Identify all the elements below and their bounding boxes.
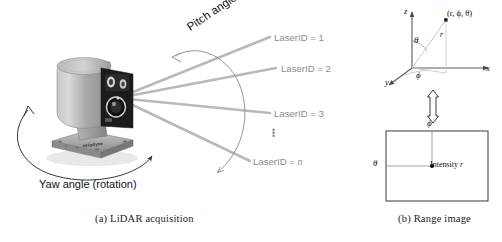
laser-id-1-label: LaserID = 1 (274, 32, 324, 43)
laser-ellipsis: ••• (272, 129, 275, 138)
laser-id-3-label: LaserID = 3 (274, 108, 324, 119)
range-image-phi-label: ϕ (427, 118, 432, 128)
range-image-theta-label: θ (373, 158, 377, 168)
spherical-axes-diagram (389, 12, 488, 85)
axis-y (389, 68, 412, 85)
lidar-device: velodyne (46, 58, 138, 166)
laser-beams (118, 37, 276, 161)
phi-label: ϕ (416, 70, 421, 80)
point-marker (444, 18, 447, 21)
yaw-angle-label: Yaw angle (rotation) (39, 178, 137, 190)
range-image-pixel-label: Intensity r (430, 160, 463, 169)
laser-beam-2 (118, 68, 276, 98)
axis-y-label: y (385, 77, 389, 87)
laser-beam-3 (118, 98, 270, 113)
laser-id-n-label: LaserID = n (253, 156, 303, 167)
caption-panel-b: (b) Range image (398, 213, 471, 224)
caption-panel-a: (a) LiDAR acquisition (95, 213, 194, 224)
spherical-point-label: (r, ϕ, θ) (447, 8, 472, 18)
range-image-pixel-text: Intensity (430, 160, 458, 169)
laser-beam-n (118, 98, 250, 161)
laser-beam-1 (118, 37, 270, 98)
axis-x-label: x (486, 63, 490, 73)
pitch-angle-arc (172, 51, 245, 172)
radius-label: r (440, 30, 443, 39)
axis-z-label: z (404, 6, 407, 16)
range-image-pixel-italic: r (460, 160, 463, 169)
laser-id-n-text: LaserID = (253, 156, 298, 167)
laser-id-n-italic: n (298, 156, 303, 167)
theta-label: θ (414, 35, 418, 45)
laser-id-2-label: LaserID = 2 (281, 63, 331, 74)
